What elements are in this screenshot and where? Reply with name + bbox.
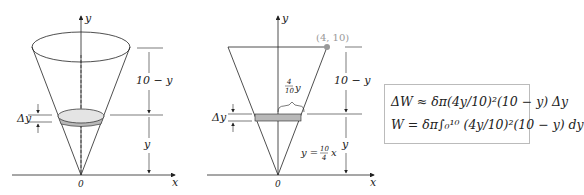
svg-text:10: 10 <box>320 145 329 153</box>
svg-text:y: y <box>341 138 349 151</box>
point-4-10 <box>324 44 330 50</box>
right-cross-section-figure: y x 0 (4, 10) 4 10 y 10 − y y Δy y = 10 … <box>207 12 377 189</box>
slice <box>255 114 301 121</box>
svg-text:0: 0 <box>275 179 281 189</box>
work-integral-formula: W = δπ∫₀¹⁰ (4y/10)²(10 − y) dy <box>391 117 584 132</box>
svg-text:Δy: Δy <box>211 111 227 124</box>
svg-text:10 − y: 10 − y <box>334 74 371 87</box>
svg-text:x: x <box>172 176 179 189</box>
work-approx-formula: ΔW ≈ δπ(4y/10)²(10 − y) Δy <box>391 94 568 109</box>
svg-text:0: 0 <box>78 179 84 189</box>
svg-text:y: y <box>84 12 92 25</box>
svg-text:y: y <box>143 138 151 151</box>
svg-text:x: x <box>331 147 337 158</box>
formula-box: ΔW ≈ δπ(4y/10)²(10 − y) Δy W = δπ∫₀¹⁰ (4… <box>384 84 530 144</box>
svg-text:4: 4 <box>286 78 291 86</box>
svg-text:10 − y: 10 − y <box>136 74 173 87</box>
svg-text:4: 4 <box>321 154 326 162</box>
left-cone-figure: y x 0 10 − y y Δy <box>12 12 179 189</box>
svg-text:y: y <box>281 12 289 25</box>
svg-text:Δy: Δy <box>16 112 32 125</box>
svg-text:y =: y = <box>300 147 318 158</box>
svg-text:x: x <box>370 176 377 189</box>
svg-text:(4, 10): (4, 10) <box>316 32 349 43</box>
svg-text:y: y <box>294 82 301 93</box>
svg-text:10: 10 <box>285 87 294 95</box>
